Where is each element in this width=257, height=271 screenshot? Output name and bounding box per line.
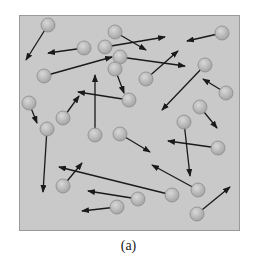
gas-molecule (122, 93, 136, 107)
velocity-arrow (44, 57, 112, 76)
gas-molecule (77, 41, 91, 55)
velocity-arrow (120, 57, 185, 66)
gas-molecule (191, 183, 205, 197)
gas-molecule (37, 69, 51, 83)
gas-molecule (56, 111, 70, 125)
gas-molecule (113, 127, 127, 141)
figure-caption: (a) (0, 238, 257, 254)
gas-molecule (190, 207, 204, 221)
gas-molecules-figure: (a) (0, 0, 257, 271)
gas-molecule (215, 26, 229, 40)
molecules (22, 18, 233, 221)
velocity-arrow (168, 141, 218, 148)
gas-molecule (88, 128, 102, 142)
gas-molecule (211, 141, 225, 155)
gas-molecule (131, 192, 145, 206)
gas-molecule (22, 96, 36, 110)
gas-molecule (219, 86, 233, 100)
velocity-arrow (184, 122, 190, 176)
gas-molecule (198, 58, 212, 72)
gas-molecule (193, 100, 207, 114)
velocity-arrow (88, 191, 138, 199)
gas-molecule (56, 179, 70, 193)
velocity-arrow (59, 167, 172, 195)
gas-molecule (108, 62, 122, 76)
gas-molecule (177, 115, 191, 129)
gas-molecule (40, 122, 54, 136)
gas-molecule (165, 188, 179, 202)
gas-molecule (110, 200, 124, 214)
velocity-arrow (152, 165, 198, 190)
velocity-arrow (78, 92, 129, 100)
gas-molecule (98, 40, 112, 54)
gas-molecule (41, 18, 55, 32)
velocity-arrow (43, 129, 47, 192)
gas-molecule (139, 72, 153, 86)
gas-molecule (108, 25, 122, 39)
molecules-layer (0, 0, 257, 271)
